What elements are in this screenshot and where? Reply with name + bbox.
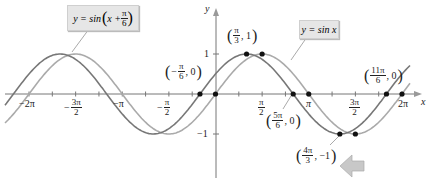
x-tick-pi2: π2 [258,98,265,117]
left-arrow-icon [340,155,364,177]
point-label-neg-pi6: (−π6, 0) [165,62,202,81]
point-label-11pi6: (11π6, 0) [364,66,403,85]
x-axis-label: x [421,97,425,107]
label-base-curve: y = sin x [299,20,339,39]
paren-close: ) [128,9,133,27]
base-y: y = sin [302,24,332,35]
point-label-4pi3: (4π3, −1) [296,146,336,165]
y-axis-arrow-icon [213,8,219,16]
x-tick-neg2pi: −2π [19,99,35,109]
callout-line-base [291,37,307,60]
x-tick-negpi2: −π2 [157,98,170,117]
callout-line-shifted [72,29,89,52]
y-tick-label-1: 1 [204,49,209,59]
graph-canvas [0,0,430,183]
point-label-5pi6: (5π6, 0) [266,111,301,130]
x-tick-2pi: 2π [398,99,408,109]
x-tick-negpi: −π [113,99,124,109]
y-axis-label: y [205,4,209,14]
x-tick-3pi2: 3π2 [349,98,360,117]
shifted-arg: x + [107,13,121,24]
x-tick-pi: π [306,99,311,109]
base-x: x [332,24,336,35]
shifted-lhs: y = sin [73,13,101,24]
callout-line-4pi3 [330,135,340,145]
callout-line-5pi6 [283,96,291,109]
y-tick-label-neg1: −1 [197,129,208,139]
x-tick-neg3pi2: −3π2 [64,98,82,117]
point-label-pi3: (π3, 1) [227,26,257,45]
label-shifted-curve: y = sin ( x + π6 ) [67,5,139,31]
